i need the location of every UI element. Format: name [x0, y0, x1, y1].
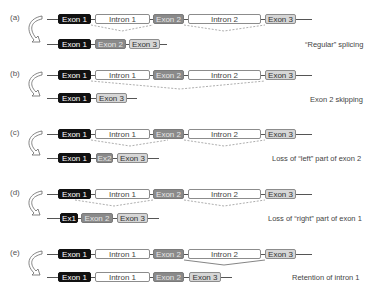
- curved-arrow-icon: [29, 16, 42, 275]
- splice-connectors: [0, 0, 378, 296]
